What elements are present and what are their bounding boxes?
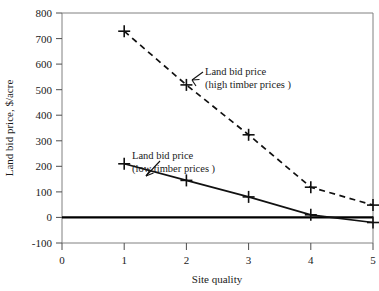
x-tick-label: 2 [184,254,190,266]
y-tick-label: 0 [47,211,53,223]
series-high-markers [118,25,379,211]
x-tick-label: 1 [121,254,127,266]
y-tick-label: -100 [32,237,53,249]
x-tick-label: 4 [308,254,314,266]
y-tick-label: 600 [36,58,53,70]
y-tick-label: 500 [36,84,53,96]
x-axis-title: Site quality [192,273,243,285]
high-timber-annotation: Land bid price (high timber prices ) [192,66,292,91]
low-annotation-line1: Land bid price [132,150,194,161]
y-tick-label: 700 [36,33,53,45]
low-annotation-line2: (low timber prices ) [132,163,216,175]
high-annotation-line2: (high timber prices ) [205,79,292,91]
y-axis-tick-labels: 800 700 600 500 400 300 200 100 0 -100 [32,7,53,249]
x-tick-label: 5 [370,254,376,266]
x-axis-tick-labels: 0 1 2 3 4 5 [59,254,376,266]
high-annotation-line1: Land bid price [205,66,267,77]
plot-frame [62,13,373,243]
y-tick-label: 100 [36,186,53,198]
x-axis-ticks [62,243,373,250]
y-tick-label: 800 [36,7,53,19]
y-axis-title: Land bid price, $/acre [3,80,15,177]
y-axis-ticks [56,13,62,243]
x-tick-label: 0 [59,254,65,266]
y-tick-label: 300 [36,135,53,147]
y-tick-label: 400 [36,109,53,121]
x-tick-label: 3 [246,254,252,266]
y-tick-label: 200 [36,160,53,172]
chart-figure: 800 700 600 500 400 300 200 100 0 -100 0… [0,0,379,291]
chart-svg: 800 700 600 500 400 300 200 100 0 -100 0… [0,0,379,291]
low-timber-annotation: Land bid price (low timber prices ) [132,150,216,176]
series-high-timber-prices [118,25,379,211]
